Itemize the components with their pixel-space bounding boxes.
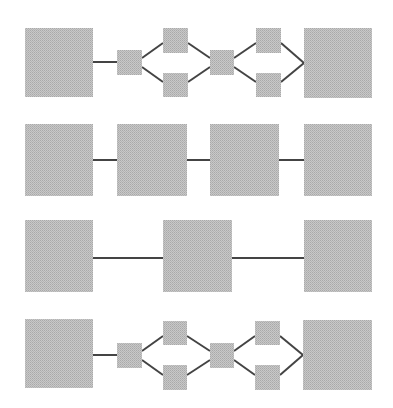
edge-r4-n2-r4-n4	[142, 360, 163, 375]
edge-r4-n5-r4-n7	[234, 360, 255, 375]
edge-r1-n6-r1-n8	[281, 43, 304, 63]
small-node-r4-n3	[163, 321, 187, 345]
large-node-r1-n1	[25, 28, 93, 97]
edge-r4-n7-r4-n8	[280, 355, 303, 375]
small-node-r4-n2	[117, 343, 142, 368]
edge-r4-n6-r4-n8	[280, 336, 303, 355]
edge-r1-n5-r1-n6	[234, 43, 256, 58]
large-node-r1-n8	[304, 28, 372, 98]
small-node-r4-n5	[210, 343, 234, 368]
edge-r4-n2-r4-n3	[142, 336, 163, 351]
edge-r1-n2-r1-n4	[142, 67, 163, 82]
edge-r1-n5-r1-n7	[234, 67, 256, 82]
large-node-r3-n2	[163, 220, 232, 292]
row-3-nodes	[25, 220, 372, 292]
large-node-r3-n3	[304, 220, 372, 292]
large-node-r2-n4	[304, 124, 372, 196]
row-4-nodes	[25, 319, 372, 390]
large-node-r2-n2	[117, 124, 187, 196]
edge-r1-n4-r1-n5	[188, 67, 210, 82]
large-node-r4-n8	[303, 320, 372, 390]
large-node-r4-n1	[25, 319, 93, 388]
small-node-r4-n6	[255, 321, 280, 345]
edge-r1-n2-r1-n3	[142, 43, 163, 58]
nodes-layer	[25, 28, 372, 390]
small-node-r4-n4	[163, 365, 187, 390]
small-node-r1-n4	[163, 73, 188, 97]
small-node-r1-n3	[163, 28, 188, 53]
large-node-r3-n1	[25, 220, 93, 292]
small-node-r1-n2	[117, 50, 142, 75]
small-node-r1-n6	[256, 28, 281, 53]
small-node-r4-n7	[255, 365, 280, 390]
edge-r1-n7-r1-n8	[281, 63, 304, 82]
network-topology-diagram	[0, 0, 393, 408]
edge-r4-n4-r4-n5	[187, 360, 210, 375]
row-1-nodes	[25, 28, 372, 98]
edge-r4-n3-r4-n5	[187, 336, 210, 351]
edge-r1-n3-r1-n5	[188, 43, 210, 58]
edge-r4-n5-r4-n6	[234, 336, 255, 351]
large-node-r2-n3	[210, 124, 279, 196]
small-node-r1-n5	[210, 50, 234, 75]
large-node-r2-n1	[25, 124, 93, 196]
small-node-r1-n7	[256, 73, 281, 97]
